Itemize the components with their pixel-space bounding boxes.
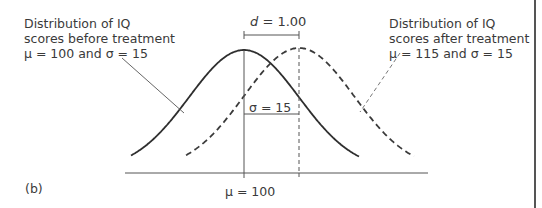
sigma-label: σ = 15 <box>249 100 291 115</box>
after-label-line-3: μ = 115 and σ = 15 <box>389 46 529 61</box>
after-treatment-curve <box>186 48 414 156</box>
after-treatment-label: Distribution of IQ scores after treatmen… <box>389 16 529 61</box>
before-label-line-1: Distribution of IQ <box>24 16 175 31</box>
before-treatment-label: Distribution of IQ scores before treatme… <box>24 16 175 61</box>
before-label-leader <box>122 58 184 113</box>
panel-label: (b) <box>25 181 43 196</box>
mean-axis-label: μ = 100 <box>225 184 275 199</box>
after-label-line-1: Distribution of IQ <box>389 16 529 31</box>
before-label-line-3: μ = 100 and σ = 15 <box>24 46 175 61</box>
before-treatment-curve <box>131 50 359 157</box>
effect-size-value: = 1.00 <box>258 14 306 29</box>
effect-size-label: d = 1.00 <box>250 14 306 29</box>
before-label-line-2: scores before treatment <box>24 31 175 46</box>
after-label-line-2: scores after treatment <box>389 31 529 46</box>
after-label-leader <box>360 53 400 112</box>
